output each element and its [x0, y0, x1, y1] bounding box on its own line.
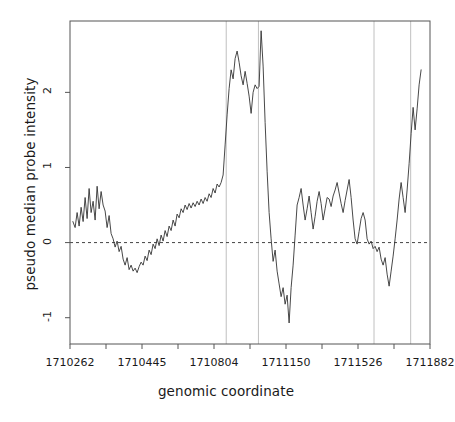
x-axis-title: genomic coordinate	[0, 383, 452, 399]
data-series-line	[73, 31, 421, 323]
x-tick-label: 1711150	[262, 356, 311, 369]
y-axis-ticks	[65, 92, 70, 317]
x-tick-label: 1710445	[118, 356, 167, 369]
y-tick-label: 1	[41, 153, 54, 179]
x-tick-label: 1711526	[334, 356, 383, 369]
y-tick-label: 2	[41, 78, 54, 104]
vertical-marker-lines	[226, 21, 410, 344]
x-tick-label: 1711882	[406, 356, 455, 369]
plot-frame	[70, 21, 430, 344]
x-axis-ticks	[70, 344, 430, 349]
x-tick-label: 1710262	[46, 356, 95, 369]
x-tick-label: 1710804	[190, 356, 239, 369]
y-tick-label: -1	[41, 303, 54, 329]
y-tick-label: 0	[41, 228, 54, 254]
